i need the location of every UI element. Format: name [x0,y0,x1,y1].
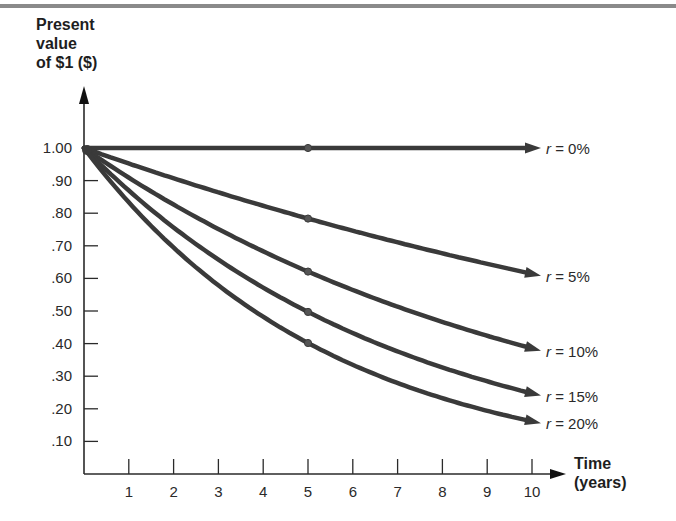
x-axis-title: Time (years) [574,454,626,492]
series-marker-dot [304,339,311,346]
series-marker-dot [304,268,311,275]
x-ticks: 12345678910 [125,459,541,500]
x-tick-label: 8 [438,483,446,500]
x-tick-label: 7 [393,483,401,500]
series-arrow-icon [525,143,541,154]
y-tick-label: 1.00 [43,139,72,156]
series-line [84,148,530,348]
series-labels: r = 0%r = 5%r = 10%r = 15%r = 20% [546,140,598,432]
y-tick-label: .10 [51,432,72,449]
y-tick-label: .20 [51,400,72,417]
x-tick-label: 4 [259,483,267,500]
series-label: r = 10% [546,343,598,360]
y-tick-label: .70 [51,237,72,254]
series-arrow-icon [524,386,541,397]
series-arrow-icon [524,267,541,278]
series-label: r = 5% [546,268,590,285]
series-marker-dot [304,215,311,222]
x-tick-label: 9 [483,483,491,500]
series-marker-dot [304,308,311,315]
x-tick-label: 1 [125,483,133,500]
origin-marker-dot [82,145,92,155]
x-tick-label: 2 [169,483,177,500]
y-tick-label: .90 [51,172,72,189]
x-tick-label: 6 [349,483,357,500]
y-axis-arrow-icon [79,86,89,104]
y-tick-label: .50 [51,302,72,319]
series-label: r = 0% [546,140,590,157]
series-arrow-icon [524,414,541,425]
axes [79,86,566,479]
series-arrow-icon [524,341,541,352]
x-tick-label: 3 [214,483,222,500]
x-axis-arrow-icon [550,469,566,479]
x-tick-label: 5 [304,483,312,500]
chart-plot: 1.00.90.80.70.60.50.40.30.20.10 12345678… [0,0,676,521]
x-axis-title-line: Time [574,454,626,473]
series-marker-dot [304,144,311,151]
x-tick-label: 10 [524,483,541,500]
y-ticks: 1.00.90.80.70.60.50.40.30.20.10 [43,139,98,449]
x-axis-title-line: (years) [574,473,626,492]
series-label: r = 20% [546,415,598,432]
y-tick-label: .30 [51,367,72,384]
series-label: r = 15% [546,388,598,405]
y-tick-label: .80 [51,204,72,221]
y-tick-label: .60 [51,269,72,286]
y-tick-label: .40 [51,335,72,352]
series-curves [82,143,541,426]
